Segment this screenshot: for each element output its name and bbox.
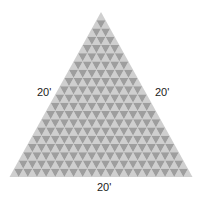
- left-side-dimension-label: 20': [37, 86, 51, 98]
- triangle-diagram: 20' 20' 20': [0, 0, 198, 201]
- bottom-side-dimension-label: 20': [97, 181, 111, 193]
- triangular-tile-grid: [0, 0, 198, 201]
- right-side-dimension-label: 20': [155, 86, 169, 98]
- tile-up: [96, 12, 105, 20]
